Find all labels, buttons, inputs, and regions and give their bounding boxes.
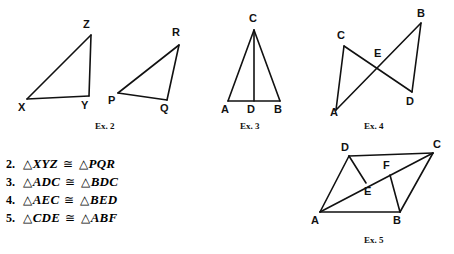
triangle-glyph: △ — [81, 175, 91, 189]
list-item: 5. △CDE ≅ △ABF — [6, 210, 196, 228]
list-item: 3. △ADC ≅ △BDC — [6, 174, 196, 192]
triangle-vertices-right: ABF — [91, 210, 118, 225]
triangle-glyph: △ — [23, 193, 33, 207]
triangle-vertices-left: XYZ — [33, 156, 58, 171]
list-item-number: 4. — [6, 193, 23, 208]
triangle-term-right: △BDC — [81, 174, 118, 190]
segment-ZX — [27, 35, 91, 99]
triangle-glyph: △ — [79, 157, 89, 171]
list-item-number: 3. — [6, 175, 23, 190]
vertex-label-C-ex3: C — [249, 13, 257, 24]
list-item: 2. △XYZ ≅ △PQR — [6, 156, 196, 174]
triangle-glyph: △ — [81, 211, 91, 225]
vertex-label-A-ex3: A — [221, 104, 229, 115]
segment-CB — [254, 30, 280, 101]
caption-ex4: Ex. 4 — [364, 122, 384, 131]
segment-AC — [336, 46, 344, 110]
vertex-label-X: X — [18, 102, 25, 113]
vertex-label-C-ex4: C — [337, 30, 345, 41]
triangle-vertices-left: AEC — [33, 192, 60, 207]
figure-ex5-parallelogram — [320, 153, 433, 212]
triangle-vertices-left: CDE — [33, 210, 60, 225]
vertex-label-Z: Z — [83, 19, 90, 30]
congruent-sign: ≅ — [59, 193, 80, 208]
triangle-vertices-right: PQR — [89, 156, 116, 171]
vertex-label-B-ex4: B — [417, 8, 425, 19]
vertex-label-E-ex5: E — [364, 186, 371, 197]
vertex-label-A-ex5: A — [311, 215, 319, 226]
segment-DC — [349, 153, 433, 156]
list-item-number: 2. — [6, 157, 23, 172]
triangle-term-left: △XYZ — [23, 156, 58, 172]
vertex-label-D-ex5: D — [341, 142, 349, 153]
figure-ex3-triangle-acb — [228, 30, 280, 101]
caption-ex5: Ex. 5 — [364, 236, 384, 245]
triangle-term-right: △ABF — [81, 210, 117, 226]
triangle-glyph: △ — [23, 157, 33, 171]
vertex-label-P: P — [108, 95, 115, 106]
congruent-sign: ≅ — [60, 175, 81, 190]
vertex-label-A-ex4: A — [330, 107, 338, 118]
triangle-term-right: △PQR — [79, 156, 115, 172]
list-item: 4. △AEC ≅ △BED — [6, 192, 196, 210]
segment-AC — [228, 30, 254, 101]
vertex-label-B-ex3: B — [274, 104, 282, 115]
vertex-label-F-ex5: F — [383, 160, 390, 171]
vertex-label-D-ex3: D — [247, 104, 255, 115]
triangle-vertices-left: ADC — [33, 174, 60, 189]
vertex-label-R: R — [172, 27, 180, 38]
segment-YZ — [89, 35, 91, 96]
triangle-glyph: △ — [80, 193, 90, 207]
caption-ex3: Ex. 3 — [240, 122, 260, 131]
vertex-label-Q: Q — [160, 103, 169, 114]
segment-XY — [27, 96, 89, 99]
segment-DE — [349, 156, 366, 183]
segment-PQ — [118, 93, 167, 100]
vertex-label-E-ex4: E — [374, 48, 381, 59]
triangle-vertices-right: BED — [90, 192, 117, 207]
triangle-term-right: △BED — [80, 192, 117, 208]
caption-ex2: Ex. 2 — [95, 122, 115, 131]
triangle-glyph: △ — [23, 211, 33, 225]
congruent-sign: ≅ — [60, 211, 81, 226]
vertex-label-Y: Y — [81, 100, 88, 111]
figure-ex2-triangle-xyz — [27, 35, 91, 99]
triangle-term-left: △CDE — [23, 210, 60, 226]
vertex-label-D-ex4: D — [406, 96, 414, 107]
congruent-sign: ≅ — [58, 157, 79, 172]
segment-FB — [390, 175, 400, 212]
vertex-label-C-ex5: C — [433, 139, 441, 150]
triangle-vertices-right: BDC — [91, 174, 118, 189]
triangle-term-left: △ADC — [23, 174, 60, 190]
triangle-term-left: △AEC — [23, 192, 59, 208]
vertex-label-B-ex5: B — [393, 215, 401, 226]
list-item-number: 5. — [6, 211, 23, 226]
figure-ex2-triangle-pqr — [118, 45, 179, 100]
triangle-glyph: △ — [23, 175, 33, 189]
congruence-statement-list: 2. △XYZ ≅ △PQR 3. △ADC ≅ △BDC 4. △AEC ≅ … — [6, 156, 196, 228]
segment-BD — [412, 23, 421, 92]
